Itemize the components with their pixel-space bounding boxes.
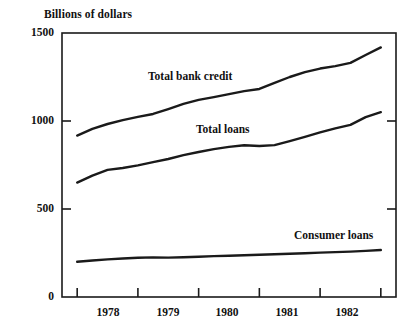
series-line-consumer-loans <box>77 250 381 262</box>
series-line-total-loans <box>77 112 381 182</box>
series-line-total-bank-credit <box>77 47 381 135</box>
chart-container: Billions of dollars 1500 1000 500 0 1978… <box>0 0 415 333</box>
chart-plot-area <box>0 0 415 333</box>
chart-series-layer <box>77 47 381 261</box>
chart-axes <box>62 33 396 297</box>
